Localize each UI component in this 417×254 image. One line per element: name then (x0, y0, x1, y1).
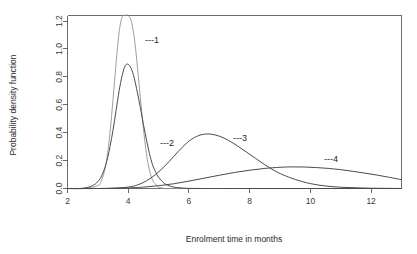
x-tick-label: 6 (187, 196, 192, 206)
series-annotation-1: ---1 (145, 35, 159, 45)
y-tick-label: 0.8 (54, 71, 64, 83)
x-axis-title: Enrolment time in months (186, 234, 282, 244)
y-tick-label: 1.2 (54, 15, 64, 27)
x-tick-label: 10 (306, 196, 316, 206)
x-tick-label: 2 (65, 196, 70, 206)
y-tick-label: 0.6 (54, 99, 64, 111)
y-tick-label: 0.4 (54, 127, 64, 139)
density-curve-2 (68, 64, 402, 189)
series-annotation-4: ---4 (324, 154, 338, 164)
density-plot-svg: 246810120.00.20.40.60.81.01.2 ---1---2--… (0, 0, 417, 254)
density-curves (68, 15, 402, 189)
x-tick-label: 12 (366, 196, 376, 206)
series-annotation-2: ---2 (160, 138, 174, 148)
series-annotation-3: ---3 (233, 133, 247, 143)
y-axis-title: Probability density function (8, 54, 18, 155)
x-tick-label: 8 (247, 196, 252, 206)
x-tick-label: 4 (126, 196, 131, 206)
axis-tick-labels: 246810120.00.20.40.60.81.01.2 (54, 15, 376, 206)
series-annotations: ---1---2---3---4 (145, 35, 338, 164)
chart-figure: 246810120.00.20.40.60.81.01.2 ---1---2--… (0, 0, 417, 254)
axis-ticks (63, 21, 371, 193)
y-tick-label: 1.0 (54, 43, 64, 55)
y-tick-label: 0.0 (54, 182, 64, 194)
density-curve-4 (68, 167, 402, 189)
y-tick-label: 0.2 (54, 154, 64, 166)
